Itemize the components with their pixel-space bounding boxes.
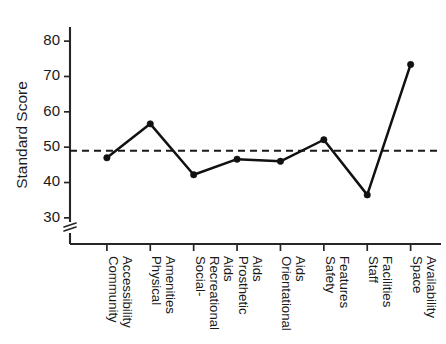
y-axis-tick-label: 50 bbox=[43, 137, 60, 154]
x-axis-label-line: Recreational bbox=[207, 256, 222, 330]
y-axis-tick-label: 30 bbox=[43, 208, 60, 225]
data-point-markers bbox=[104, 61, 414, 198]
line-chart: Standard Score 304050607080 CommunityAcc… bbox=[0, 0, 446, 344]
data-series-line bbox=[107, 64, 411, 194]
x-axis-category-label: ProstheticAids bbox=[236, 256, 265, 315]
data-point bbox=[147, 121, 153, 127]
x-axis-label-line: Facilities bbox=[380, 256, 395, 308]
x-axis-tick-labels: CommunityAccessibilityPhysicalAmenitiesS… bbox=[106, 256, 439, 331]
data-point bbox=[234, 156, 240, 162]
x-axis-label-line: Staff bbox=[366, 256, 381, 283]
x-axis-label-line: Features bbox=[337, 256, 352, 308]
x-axis-category-label: CommunityAccessibility bbox=[106, 256, 135, 328]
x-axis-category-label: OrientationalAids bbox=[279, 256, 308, 331]
x-axis-label-line: Physical bbox=[149, 256, 164, 305]
x-axis-category-label: Social-RecreationalAids bbox=[193, 256, 236, 330]
data-point bbox=[321, 137, 327, 143]
data-point bbox=[104, 155, 110, 161]
x-axis-label-line: Availability bbox=[424, 256, 439, 318]
x-axis-label-line: Aids bbox=[250, 256, 265, 282]
data-point bbox=[190, 172, 196, 178]
x-axis bbox=[70, 244, 441, 251]
x-axis-category-label: SpaceAvailability bbox=[410, 256, 439, 318]
y-axis-tick-label: 80 bbox=[43, 31, 60, 48]
y-axis-tick-label: 70 bbox=[43, 66, 60, 83]
y-axis-title: Standard Score bbox=[13, 81, 30, 189]
data-point bbox=[407, 61, 413, 67]
x-axis-category-label: StaffFacilities bbox=[366, 256, 395, 308]
x-axis-category-label: SafetyFeatures bbox=[323, 256, 352, 308]
y-axis-tick-label: 40 bbox=[43, 172, 60, 189]
x-axis-label-line: Community bbox=[106, 256, 121, 323]
x-axis-label-line: Accessibility bbox=[120, 256, 135, 328]
data-point bbox=[364, 192, 370, 198]
x-axis-label-line: Orientational bbox=[279, 256, 294, 331]
x-axis-label-line: Social- bbox=[193, 256, 208, 296]
y-axis bbox=[64, 27, 76, 244]
chart-container: Standard Score 304050607080 CommunityAcc… bbox=[0, 0, 446, 344]
x-axis-label-line: Amenities bbox=[163, 256, 178, 314]
x-axis-label-line: Aids bbox=[293, 256, 308, 282]
x-axis-label-line: Space bbox=[410, 256, 425, 293]
x-axis-label-line: Prosthetic bbox=[236, 256, 251, 315]
x-axis-label-line: Aids bbox=[221, 256, 236, 282]
x-axis-label-line: Safety bbox=[323, 256, 338, 294]
data-point bbox=[277, 158, 283, 164]
y-axis-tick-labels: 304050607080 bbox=[43, 31, 60, 225]
y-axis-tick-label: 60 bbox=[43, 102, 60, 119]
x-axis-category-label: PhysicalAmenities bbox=[149, 256, 178, 314]
